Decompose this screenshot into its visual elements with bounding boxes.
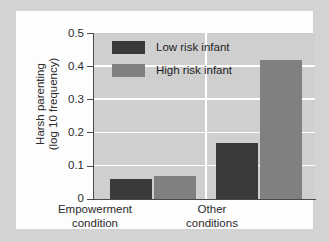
bar-empowerment-high-risk	[154, 176, 196, 199]
y-axis-tick-0.5	[87, 33, 93, 34]
y-axis-tick-0.3	[87, 99, 93, 100]
legend-label-low-risk: Low risk infant	[156, 42, 230, 54]
y-tick-label-0.4: 0.4	[18, 61, 84, 73]
x-axis-label-empowerment-line-2: condition	[35, 217, 155, 231]
legend-item-high-risk: High risk infant	[112, 64, 232, 77]
x-axis-label-empowerment: Empowerment condition	[35, 203, 155, 230]
x-axis-label-other-line-2: conditions	[152, 217, 272, 231]
legend-item-low-risk: Low risk infant	[112, 41, 232, 54]
y-tick-label-0.3: 0.3	[18, 94, 84, 106]
chart-page: Harsh parenting (log 10 frequency) 0.5 0…	[0, 0, 329, 242]
legend: Low risk infant High risk infant	[112, 41, 232, 87]
legend-swatch-high-risk	[112, 64, 145, 77]
y-axis-tick-0	[87, 199, 93, 200]
legend-swatch-low-risk	[112, 41, 145, 54]
bar-other-low-risk	[216, 143, 258, 199]
y-tick-label-0.5: 0.5	[18, 28, 84, 40]
legend-label-high-risk: High risk infant	[156, 65, 232, 77]
x-axis-label-other: Other conditions	[152, 203, 272, 230]
y-tick-label-0.1: 0.1	[18, 160, 84, 172]
x-axis-line	[93, 199, 316, 200]
y-axis-tick-0.4	[87, 66, 93, 67]
chart-card: Harsh parenting (log 10 frequency) 0.5 0…	[16, 11, 313, 229]
x-axis-label-empowerment-line-1: Empowerment	[35, 203, 155, 217]
x-axis-label-other-line-1: Other	[152, 203, 272, 217]
bar-empowerment-low-risk	[110, 179, 152, 199]
y-axis-tick-0.1	[87, 166, 93, 167]
y-tick-label-0.2: 0.2	[18, 127, 84, 139]
plot-area: Low risk infant High risk infant	[94, 33, 315, 199]
bar-other-high-risk	[260, 60, 302, 199]
y-axis-tick-0.2	[87, 132, 93, 133]
